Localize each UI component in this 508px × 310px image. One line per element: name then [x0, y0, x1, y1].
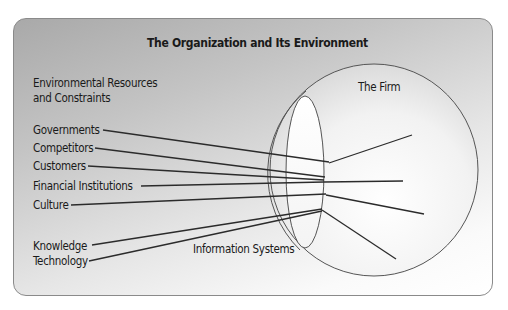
- factor-governments: Governments: [33, 123, 100, 137]
- environment-heading-line2: and Constraints: [33, 91, 110, 105]
- factor-financial-institutions: Financial Institutions: [33, 179, 133, 193]
- firm-label: The Firm: [358, 80, 400, 94]
- factor-customers: Customers: [33, 159, 86, 173]
- information-systems-ellipse: [286, 96, 324, 248]
- factor-technology: Technology: [33, 254, 88, 268]
- factor-competitors: Competitors: [33, 141, 93, 155]
- information-systems-label: Information Systems: [193, 242, 294, 256]
- factor-culture: Culture: [33, 198, 69, 212]
- factor-knowledge: Knowledge: [33, 239, 87, 253]
- environment-heading-line1: Environmental Resources: [33, 76, 157, 90]
- diagram-title: The Organization and Its Environment: [147, 36, 368, 50]
